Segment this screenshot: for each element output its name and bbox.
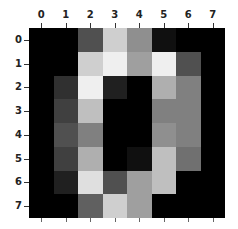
x-tick-label: 2 — [80, 9, 100, 20]
x-tick-mark-bottom — [115, 218, 116, 222]
heatmap-cell: 5 — [103, 171, 128, 195]
heatmap-cell: 4 — [54, 147, 79, 171]
x-tick-mark-bottom — [41, 218, 42, 222]
heatmap-cell: 0 — [54, 28, 79, 52]
heatmap-cell: 4 — [54, 99, 79, 123]
heatmap-cell: 2 — [54, 171, 79, 195]
heatmap-cell: 0 — [29, 171, 54, 195]
heatmap-cell: 0 — [29, 123, 54, 147]
heatmap-cell: 10 — [127, 171, 152, 195]
heatmap-cell: 7 — [176, 147, 201, 171]
heatmap-cell: 0 — [54, 52, 79, 76]
heatmap-cell: 0 — [29, 28, 54, 52]
heatmap-cell: 15 — [78, 76, 103, 100]
y-tick-label: 0 — [10, 34, 22, 45]
heatmap-cell: 0 — [201, 147, 226, 171]
x-tick-mark-bottom — [164, 218, 165, 222]
heatmap-cell: 0 — [29, 52, 54, 76]
y-tick-label: 4 — [10, 129, 22, 140]
heatmap-cell: 10 — [127, 194, 152, 218]
y-tick-label: 7 — [10, 200, 22, 211]
heatmap-cell: 0 — [176, 194, 201, 218]
heatmap-cell: 2 — [103, 76, 128, 100]
heatmap-cell: 5 — [78, 28, 103, 52]
x-tick-label: 5 — [154, 9, 174, 20]
heatmap-cell: 8 — [176, 123, 201, 147]
heatmap-cell: 0 — [176, 28, 201, 52]
y-tick-label: 3 — [10, 105, 22, 116]
heatmap-cell: 8 — [176, 76, 201, 100]
heatmap-cell: 0 — [201, 52, 226, 76]
heatmap-cell: 8 — [152, 99, 177, 123]
heatmap-cell: 0 — [201, 76, 226, 100]
x-tick-label: 4 — [129, 9, 149, 20]
heatmap-cell: 0 — [201, 171, 226, 195]
heatmap-cell: 0 — [54, 194, 79, 218]
heatmap-cell: 8 — [176, 99, 201, 123]
heatmap-cell: 0 — [201, 194, 226, 218]
x-tick-mark-bottom — [188, 218, 189, 222]
x-tick-label: 7 — [203, 9, 223, 20]
heatmap-cell: 0 — [152, 194, 177, 218]
heatmap-cell: 0 — [29, 76, 54, 100]
heatmap-cell: 3 — [54, 76, 79, 100]
x-tick-mark-bottom — [66, 218, 67, 222]
heatmap-cell: 0 — [103, 147, 128, 171]
heatmap-cell: 13 — [103, 28, 128, 52]
x-tick-label: 0 — [31, 9, 51, 20]
heatmap-cell: 5 — [176, 52, 201, 76]
x-tick-label: 6 — [178, 9, 198, 20]
heatmap-cell: 0 — [201, 99, 226, 123]
heatmap-cell: 8 — [78, 123, 103, 147]
heatmap-cell: 13 — [78, 52, 103, 76]
y-tick-label: 5 — [10, 153, 22, 164]
heatmap-cell: 11 — [152, 76, 177, 100]
x-tick-mark-bottom — [90, 218, 91, 222]
heatmap-cell: 12 — [152, 147, 177, 171]
heatmap-cell: 0 — [127, 99, 152, 123]
heatmap-cell: 1 — [127, 147, 152, 171]
heatmap-cell: 0 — [201, 123, 226, 147]
heatmap-cell: 5 — [54, 123, 79, 147]
heatmap-cell: 12 — [152, 171, 177, 195]
heatmap-cell: 15 — [103, 52, 128, 76]
heatmap-cell: 0 — [127, 76, 152, 100]
heatmap-cell: 0 — [103, 99, 128, 123]
heatmap-cell: 11 — [78, 147, 103, 171]
heatmap-cell: 0 — [176, 171, 201, 195]
heatmap-cell: 13 — [103, 194, 128, 218]
heatmap-grid: 0051391000013151015500315201180041200880… — [29, 28, 225, 218]
heatmap-cell: 1 — [152, 28, 177, 52]
heatmap-cell: 6 — [78, 194, 103, 218]
heatmap-cell: 9 — [152, 123, 177, 147]
heatmap-cell: 0 — [29, 99, 54, 123]
heatmap-cell: 14 — [78, 171, 103, 195]
y-tick-label: 6 — [10, 176, 22, 187]
heatmap-cell: 9 — [127, 28, 152, 52]
heatmap-cell: 0 — [201, 28, 226, 52]
heatmap-cell: 0 — [29, 194, 54, 218]
x-tick-label: 1 — [56, 9, 76, 20]
y-tick-label: 1 — [10, 58, 22, 69]
heatmap-cell: 10 — [127, 52, 152, 76]
heatmap-cell: 12 — [78, 99, 103, 123]
heatmap-cell: 0 — [103, 123, 128, 147]
x-tick-mark-bottom — [213, 218, 214, 222]
heatmap-figure: 01234567 01234567 0051391000013151015500… — [0, 0, 238, 229]
heatmap-cell: 15 — [152, 52, 177, 76]
x-tick-label: 3 — [105, 9, 125, 20]
heatmap-cell: 0 — [29, 147, 54, 171]
heatmap-cell: 0 — [127, 123, 152, 147]
x-tick-mark-bottom — [139, 218, 140, 222]
y-tick-label: 2 — [10, 81, 22, 92]
